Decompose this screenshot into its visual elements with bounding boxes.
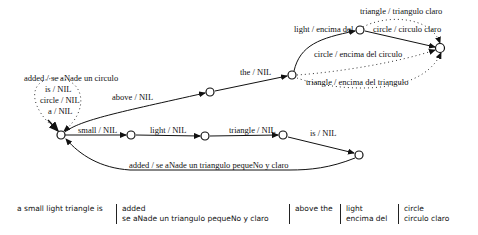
edge-triangle — [210, 135, 278, 136]
state-light — [201, 132, 209, 140]
state-tri — [279, 131, 287, 139]
label-circle-encima: circle / encima del circulo — [314, 49, 402, 59]
col2-line1: added — [122, 204, 269, 214]
label-circle: circle / NIL — [40, 95, 80, 105]
label-light-encima: light / encima del — [294, 24, 354, 34]
state-enc — [356, 26, 364, 34]
table-divider — [116, 204, 117, 224]
label-a: a / NIL — [48, 106, 73, 116]
table-col-light: light encima del — [346, 204, 387, 224]
state-above — [206, 88, 214, 96]
label-added-circulo: added / se aNade un circulo — [24, 73, 118, 83]
edge-the — [215, 76, 287, 91]
table-col-above: above the — [295, 204, 333, 214]
state-small — [127, 131, 135, 139]
label-light: light / NIL — [150, 125, 186, 135]
col4-line1: light — [346, 204, 387, 214]
label-triangle-encima: triangle / encima del triangulo — [306, 77, 408, 87]
col4-line2: encima del — [346, 214, 387, 224]
label-small: small / NIL — [78, 125, 117, 135]
table-col-source: a small light triangle is — [17, 204, 103, 214]
col5-line1: circle — [404, 204, 449, 214]
table-col-added: added se aNade un triangulo pequeNo y cl… — [122, 204, 269, 224]
edge-light — [136, 135, 200, 136]
table-divider — [340, 204, 341, 224]
label-triangle-claro: triangle / triangulo claro — [360, 6, 442, 16]
label-added-triangulo: added / se aNade un triangulo pequeNo y … — [129, 160, 289, 170]
col5-line2: circulo claro — [404, 214, 449, 224]
state-the — [288, 71, 296, 79]
state-final — [436, 44, 445, 53]
label-circle-claro: circle / circulo claro — [373, 24, 441, 34]
table-divider — [289, 204, 290, 224]
edge-is — [288, 137, 354, 153]
label-the: the / NIL — [240, 67, 271, 77]
table-divider — [398, 204, 399, 224]
state-is — [355, 151, 363, 159]
label-triangle: triangle / NIL — [229, 125, 276, 135]
transducer-diagram: added / se aNade un circulo is / NIL cir… — [0, 0, 478, 200]
label-above: above / NIL — [112, 92, 153, 102]
start-arrow — [48, 120, 58, 131]
label-is: is / NIL — [45, 84, 71, 94]
col2-line2: se aNade un triangulo pequeNo y claro — [122, 214, 269, 224]
table-col-circle: circle circulo claro — [404, 204, 449, 224]
label-is2: is / NIL — [310, 128, 336, 138]
state-start — [57, 131, 65, 139]
